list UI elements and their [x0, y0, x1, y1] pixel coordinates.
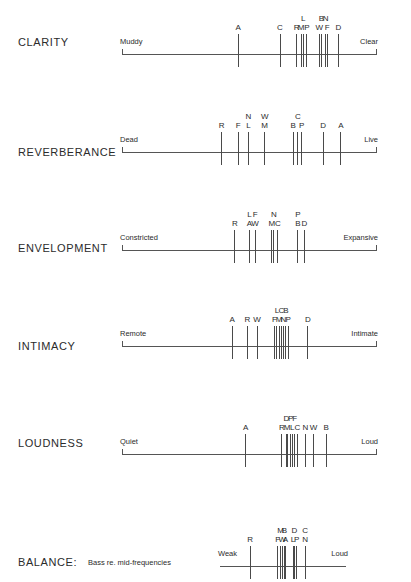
attribute-label: ENVELOPMENT: [18, 242, 108, 254]
hall-tick: [281, 326, 282, 359]
hall-code-label: F: [234, 122, 243, 131]
hall-tick: [250, 546, 251, 579]
hall-code-label: A: [336, 122, 345, 131]
hall-tick: [294, 434, 295, 467]
hall-code-label: F: [251, 211, 260, 220]
attribute-label: INTIMACY: [18, 340, 75, 352]
hall-tick: [279, 326, 280, 359]
hall-code-label: P: [293, 211, 302, 220]
hall-tick: [248, 132, 249, 165]
hall-tick: [285, 326, 286, 359]
hall-tick: [306, 34, 307, 67]
hall-code-label: R: [246, 536, 255, 545]
right-anchor-label: Loud: [331, 549, 348, 558]
hall-code-label: M: [260, 122, 269, 131]
right-anchor-label: Intimate: [351, 329, 378, 338]
hall-tick: [326, 434, 327, 467]
attribute-label: CLARITY: [18, 36, 69, 48]
hall-code-label: F: [323, 24, 332, 33]
left-anchor-label: Weak: [218, 549, 237, 558]
hall-tick: [271, 230, 272, 263]
hall-code-label: P: [284, 316, 293, 325]
hall-tick: [303, 34, 304, 67]
hall-code-label: N: [301, 536, 310, 545]
hall-code-label: L: [244, 122, 253, 131]
hall-tick: [297, 132, 298, 165]
axis-left-endcap: [122, 341, 123, 347]
hall-tick: [301, 34, 302, 67]
hall-tick: [292, 434, 293, 467]
hall-code-label: D: [334, 24, 343, 33]
right-anchor-label: Loud: [361, 437, 378, 446]
hall-code-label: A: [228, 316, 237, 325]
hall-tick: [238, 34, 239, 67]
hall-code-label: N: [244, 113, 253, 122]
hall-tick: [294, 546, 295, 579]
hall-tick: [255, 230, 256, 263]
attribute-label: BALANCE:: [18, 556, 77, 568]
right-anchor-label: Live: [364, 135, 378, 144]
hall-tick: [280, 34, 281, 67]
hall-code-label: D: [319, 122, 328, 131]
hall-tick: [296, 34, 297, 67]
hall-tick: [288, 326, 289, 359]
hall-tick: [305, 546, 306, 579]
right-anchor-label: Expansive: [343, 233, 378, 242]
hall-tick: [304, 230, 305, 263]
hall-code-label: R: [230, 220, 239, 229]
hall-tick: [274, 326, 275, 359]
hall-code-label: A: [234, 24, 243, 33]
hall-tick: [296, 546, 297, 579]
acoustic-attribute-scales-figure: CLARITYMuddyClearACRMLPWBNFDREVERBERANCE…: [0, 0, 411, 582]
hall-tick: [282, 546, 283, 579]
hall-code-label: P: [302, 24, 311, 33]
hall-tick: [249, 230, 250, 263]
hall-tick: [338, 34, 339, 67]
attribute-sublabel: Bass re. mid-frequencies: [88, 558, 171, 567]
hall-code-label: R: [217, 122, 226, 131]
left-anchor-label: Dead: [120, 135, 138, 144]
axis-line: [122, 152, 376, 153]
hall-code-label: W: [260, 113, 269, 122]
hall-tick: [285, 546, 286, 579]
hall-tick: [313, 434, 314, 467]
hall-tick: [234, 230, 235, 263]
hall-code-label: D: [300, 220, 309, 229]
left-anchor-label: Quiet: [120, 437, 138, 446]
left-anchor-label: Constricted: [120, 233, 158, 242]
axis-left-endcap: [122, 147, 123, 153]
hall-code-label: C: [276, 24, 285, 33]
hall-code-label: D: [303, 316, 312, 325]
hall-tick: [327, 34, 328, 67]
axis-line: [220, 566, 346, 567]
hall-tick: [276, 326, 277, 359]
right-anchor-label: Clear: [360, 37, 378, 46]
hall-tick: [257, 326, 258, 359]
axis-left-endcap: [122, 49, 123, 55]
hall-code-label: B: [322, 424, 331, 433]
axis-left-endcap: [122, 245, 123, 251]
hall-tick: [307, 326, 308, 359]
hall-tick: [305, 434, 306, 467]
axis-right-endcap: [376, 449, 377, 455]
hall-tick: [301, 132, 302, 165]
axis-line: [122, 346, 376, 347]
hall-tick: [238, 132, 239, 165]
hall-code-label: A: [241, 424, 250, 433]
hall-tick: [232, 326, 233, 359]
axis-right-endcap: [376, 147, 377, 153]
hall-tick: [297, 230, 298, 263]
hall-tick: [264, 132, 265, 165]
left-anchor-label: Remote: [120, 329, 146, 338]
hall-tick: [293, 132, 294, 165]
left-anchor-label: Muddy: [120, 37, 143, 46]
hall-code-label: R: [243, 316, 252, 325]
attribute-label: LOUDNESS: [18, 437, 83, 449]
hall-tick: [323, 132, 324, 165]
attribute-label: REVERBERANCE: [18, 146, 116, 158]
hall-tick: [247, 326, 248, 359]
hall-tick: [281, 434, 282, 467]
axis-right-endcap: [376, 245, 377, 251]
hall-tick: [287, 434, 288, 467]
hall-code-label: P: [297, 122, 306, 131]
